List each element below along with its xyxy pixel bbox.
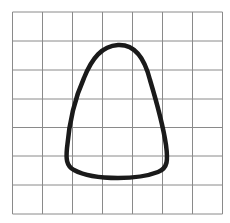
grid (13, 12, 223, 214)
closed-curve-shape (67, 45, 167, 178)
grid-diagram (0, 0, 230, 223)
